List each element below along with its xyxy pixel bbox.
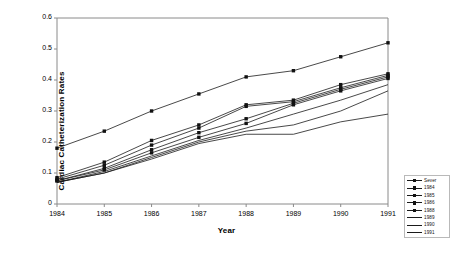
legend-item-label: 1991 (423, 229, 435, 236)
legend-item-label: 1985 (423, 192, 435, 199)
x-tick-label: 1991 (368, 210, 408, 217)
legend-item-sever: Sever (406, 177, 448, 184)
series-1991 (57, 114, 388, 182)
legend-key-icon (406, 207, 423, 214)
y-tick-label: 0.5 (19, 44, 52, 51)
axes (54, 18, 388, 207)
cardiac-catheterization-line-chart: Cardiac Catheterization Rates Year 00.10… (0, 0, 453, 261)
y-tick-label: 0.1 (19, 168, 52, 175)
y-tick-label: 0.6 (19, 13, 52, 20)
legend-item-label: 1984 (423, 184, 435, 191)
series-sever (55, 41, 389, 150)
x-tick-label: 1984 (37, 210, 77, 217)
chart-legend: Sever1984198519861988198919901991 (404, 175, 450, 238)
y-tick-label: 0.2 (19, 137, 52, 144)
series-1990 (57, 91, 388, 182)
legend-key-icon (406, 199, 423, 206)
x-tick-label: 1988 (226, 210, 266, 217)
legend-key-icon (406, 214, 423, 221)
y-tick-label: 0.4 (19, 75, 52, 82)
legend-key-icon (406, 192, 423, 199)
x-tick-label: 1986 (132, 210, 172, 217)
legend-item-1988: 1988 (406, 207, 448, 214)
legend-item-label: 1986 (423, 199, 435, 206)
data-series-layer (55, 41, 389, 182)
y-tick-label: 0.3 (19, 106, 52, 113)
x-tick-label: 1989 (273, 210, 313, 217)
legend-item-label: Sever (423, 177, 437, 184)
plot-area (0, 0, 453, 261)
x-tick-label: 1985 (84, 210, 124, 217)
legend-item-1991: 1991 (406, 229, 448, 236)
legend-item-1985: 1985 (406, 192, 448, 199)
legend-item-1990: 1990 (406, 221, 448, 228)
legend-item-1989: 1989 (406, 214, 448, 221)
legend-key-icon (406, 185, 423, 192)
y-tick-label: 0 (19, 199, 52, 206)
legend-key-icon (406, 177, 423, 184)
legend-item-label: 1988 (423, 207, 435, 214)
x-tick-label: 1990 (321, 210, 361, 217)
legend-key-icon (406, 229, 423, 236)
x-tick-label: 1987 (179, 210, 219, 217)
legend-item-1986: 1986 (406, 199, 448, 206)
legend-item-label: 1990 (423, 221, 435, 228)
legend-item-1984: 1984 (406, 184, 448, 191)
legend-key-icon (406, 222, 423, 229)
legend-item-label: 1989 (423, 214, 435, 221)
